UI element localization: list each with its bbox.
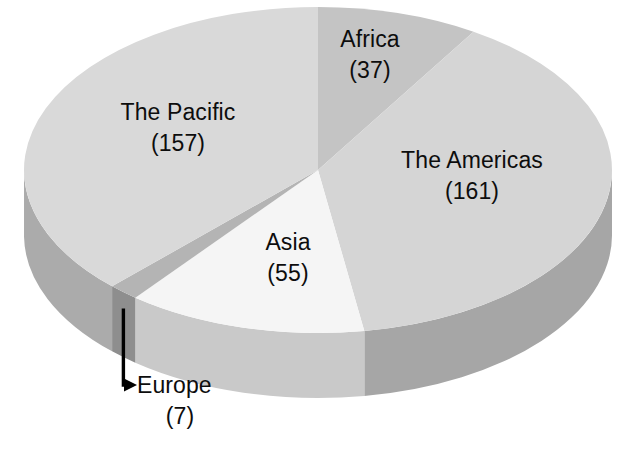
slice-label-asia-value: (55) <box>228 258 348 289</box>
slice-label-africa-name: Africa <box>300 24 440 55</box>
slice-label-asia: Asia (55) <box>228 227 348 288</box>
slice-label-asia-name: Asia <box>228 227 348 258</box>
slice-label-africa: Africa (37) <box>300 24 440 85</box>
slice-label-pacific-value: (157) <box>88 128 268 159</box>
pie-chart-figure: Africa (37) The Americas (161) The Pacif… <box>0 0 624 449</box>
slice-label-pacific: The Pacific (157) <box>88 97 268 158</box>
slice-label-europe-value: (7) <box>137 401 223 432</box>
slice-label-pacific-name: The Pacific <box>88 97 268 128</box>
slice-label-africa-value: (37) <box>300 55 440 86</box>
slice-label-americas-name: The Americas <box>372 145 572 176</box>
slice-label-americas: The Americas (161) <box>372 145 572 206</box>
slice-label-europe: Europe (7) <box>137 370 247 431</box>
slice-label-europe-name: Europe <box>137 370 247 401</box>
slice-label-americas-value: (161) <box>372 176 572 207</box>
